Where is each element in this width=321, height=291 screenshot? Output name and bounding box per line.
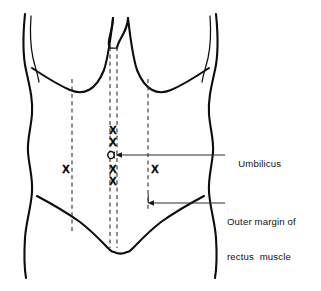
left-arm-outer-contour bbox=[23, 14, 32, 278]
right-arm-outer-contour bbox=[209, 14, 218, 278]
rectus-margin-label-line2: rectus muscle bbox=[227, 251, 296, 263]
right-lateral-x-mark: X bbox=[151, 163, 159, 175]
umbilicus-label: Umbilicus bbox=[227, 146, 281, 181]
rectus-margin-label-line1: Outer margin of bbox=[227, 216, 296, 228]
midline-x-mark-2: X bbox=[109, 136, 117, 148]
right-inguinal-contour bbox=[127, 196, 204, 252]
rectus-margin-label: Outer margin of rectus muscle bbox=[227, 193, 296, 286]
midline-x-mark-4: X bbox=[109, 175, 117, 187]
midline-x-mark-3: X bbox=[109, 163, 117, 175]
left-inguinal-contour bbox=[37, 196, 114, 252]
umbilicus-marker-group bbox=[108, 151, 115, 158]
umbilicus-label-text: Umbilicus bbox=[238, 158, 281, 169]
figure-root: X X X X X X Umbilicus Outer margin of bbox=[0, 0, 321, 291]
right-costal-margin bbox=[128, 18, 209, 92]
umbilicus-ring-icon bbox=[108, 151, 114, 158]
xiphoid-left-branch bbox=[109, 18, 113, 48]
torso-outline-group bbox=[23, 14, 218, 278]
midline-x-mark-1: X bbox=[109, 124, 117, 136]
left-lateral-x-mark: X bbox=[62, 163, 70, 175]
suprapubic-contour bbox=[114, 252, 127, 254]
xiphoid-right-branch bbox=[117, 18, 128, 48]
